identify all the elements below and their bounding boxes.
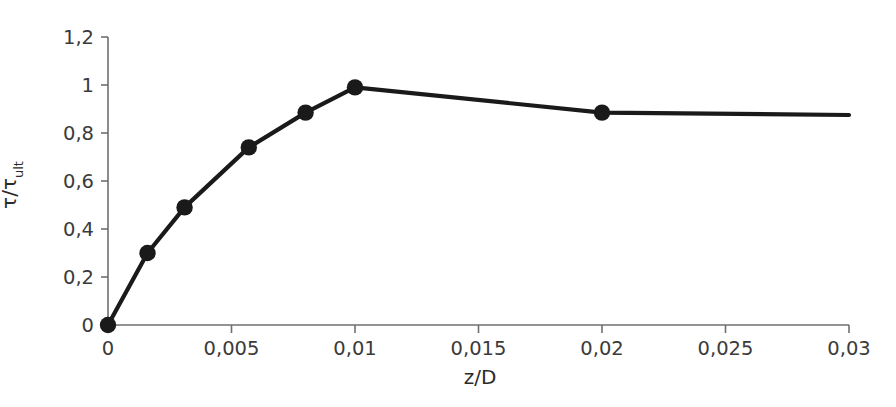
y-axis-title-subscript: ult: [11, 161, 26, 178]
data-point-marker: [139, 245, 155, 261]
y-axis-title-base: τ/τ: [0, 178, 21, 209]
data-markers-group: [100, 79, 610, 333]
y-tick-label: 1,2: [0, 26, 94, 49]
x-tick-label: 0,02: [580, 337, 623, 360]
x-tick-label: 0,015: [451, 337, 507, 360]
data-point-marker: [241, 139, 257, 155]
data-point-marker: [100, 317, 116, 333]
data-point-marker: [594, 104, 610, 120]
y-tick-label: 0,2: [0, 266, 94, 289]
y-tick-label: 1: [0, 74, 94, 97]
x-tick-label: 0,005: [204, 337, 260, 360]
data-point-marker: [297, 104, 313, 120]
data-point-marker: [176, 199, 192, 215]
chart-figure: 00,20,40,60,811,2 00,0050,010,0150,020,0…: [0, 0, 896, 407]
x-tick-label: 0,025: [698, 337, 754, 360]
x-tick-label: 0,03: [827, 337, 870, 360]
y-axis-title: τ/τult: [0, 161, 24, 209]
x-axis-title: z/D: [464, 365, 497, 389]
y-tick-label: 0: [0, 314, 94, 337]
data-series-group: [108, 87, 849, 325]
x-tick-label: 0: [102, 337, 114, 360]
data-line: [108, 87, 849, 325]
plot-canvas: [0, 0, 896, 407]
y-tick-label: 0,4: [0, 218, 94, 241]
x-tick-label: 0,01: [333, 337, 376, 360]
axes-group: [101, 37, 849, 333]
y-tick-label: 0,8: [0, 122, 94, 145]
data-point-marker: [347, 79, 363, 95]
